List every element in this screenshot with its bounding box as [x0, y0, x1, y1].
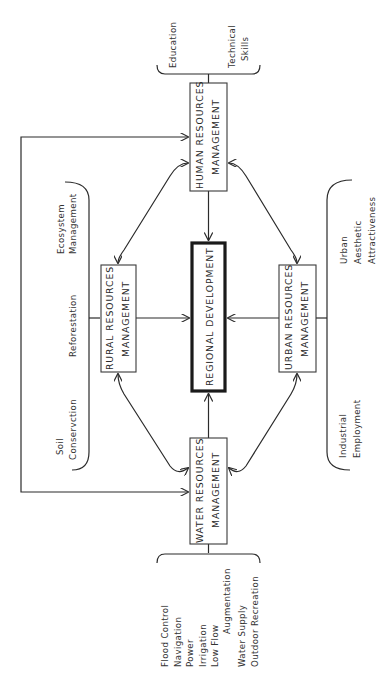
urban-factors: Industrial Employment Urban Aesthetic At… — [338, 196, 377, 458]
node-rural: RURAL RESOURCES MANAGEMENT — [101, 265, 136, 372]
label-ecosystem-management: Management — [68, 193, 78, 254]
label-skills: Skills — [240, 36, 250, 61]
node-urban: URBAN RESOURCES MANAGEMENT — [279, 264, 316, 372]
label-augmentation: Augmentation — [222, 568, 232, 634]
label-industrial: Industrial — [338, 414, 348, 458]
regional-development-diagram: HUMAN RESOURCES MANAGEMENT REGIONAL DEVE… — [0, 0, 384, 681]
arrow-urban-water — [229, 374, 297, 472]
rural-box-line1: RURAL RESOURCES — [104, 266, 115, 370]
arrow-human-rural — [118, 163, 188, 263]
label-reforestation: Reforestation — [68, 294, 78, 357]
node-water: WATER RESOURCES MANAGEMENT — [190, 438, 227, 544]
rural-factors: Soil Conservction Reforestation Ecosyste… — [55, 193, 78, 460]
label-technical: Technical — [227, 25, 237, 69]
label-outdoor-recreation: Outdoor Recreation — [250, 576, 260, 667]
label-urban: Urban — [339, 236, 349, 264]
water-factors-bracket — [157, 554, 260, 563]
water-box-line1: WATER RESOURCES — [194, 438, 205, 543]
human-box-line2: MANAGEMENT — [210, 99, 221, 175]
label-ecosystem: Ecosystem — [56, 204, 66, 254]
label-attractiveness: Attractiveness — [367, 196, 377, 264]
rural-box-line2: MANAGEMENT — [120, 281, 131, 357]
node-human: HUMAN RESOURCES MANAGEMENT — [190, 81, 227, 191]
label-conservation: Conservction — [68, 399, 78, 460]
label-flood-control: Flood Control — [160, 605, 170, 667]
urban-box-line1: URBAN RESOURCES — [283, 264, 294, 370]
label-low-flow: Low Flow — [210, 625, 220, 667]
label-employment: Employment — [352, 399, 362, 458]
label-navigation: Navigation — [173, 617, 183, 667]
human-factors: Education Technical Skills — [168, 22, 250, 69]
label-aesthetic: Aesthetic — [353, 220, 363, 264]
arrow-rural-water — [118, 374, 188, 472]
human-box-line1: HUMAN RESOURCES — [194, 81, 205, 189]
label-water-supply: Water Supply — [237, 605, 247, 667]
regional-box-label: REGIONAL DEVELOPMENT — [204, 247, 215, 386]
urban-box-line2: MANAGEMENT — [299, 281, 310, 357]
label-power: Power — [185, 639, 195, 667]
arrow-human-urban — [229, 163, 297, 263]
label-education: Education — [168, 22, 178, 68]
label-soil: Soil — [55, 438, 65, 455]
label-irrigation: Irrigation — [198, 624, 208, 667]
water-box-line2: MANAGEMENT — [210, 452, 221, 528]
water-factors: Flood Control Navigation Power Irrigatio… — [160, 568, 260, 667]
node-regional: REGIONAL DEVELOPMENT — [192, 243, 225, 391]
